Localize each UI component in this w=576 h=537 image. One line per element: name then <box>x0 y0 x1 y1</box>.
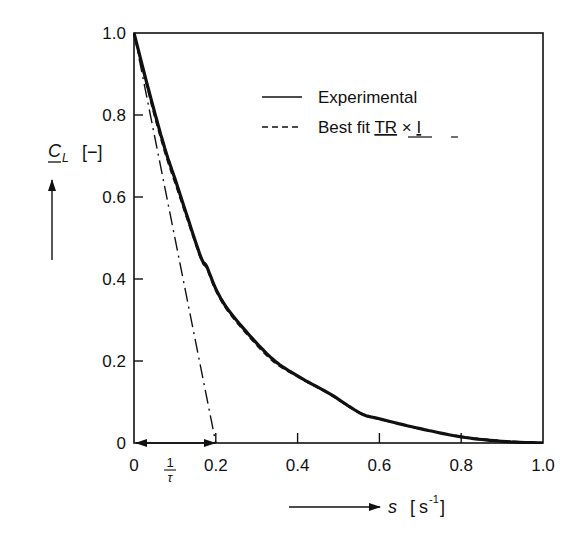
svg-text:]: ] <box>440 497 445 517</box>
chart-figure: 00.20.40.60.81.0 00.20.40.60.81.0 Experi… <box>0 0 576 537</box>
tau-annotation: 1 τ <box>164 455 176 485</box>
legend-label-experimental: Experimental <box>318 88 417 107</box>
x-tick-label: 0.4 <box>286 456 310 475</box>
svg-text:[: [ <box>410 497 415 517</box>
svg-text:s: s <box>388 497 397 517</box>
x-tick-label: 1.0 <box>531 456 555 475</box>
x-tick-label: 0.2 <box>204 456 228 475</box>
svg-text:L: L <box>62 151 69 165</box>
svg-text:-1: -1 <box>429 493 439 505</box>
y-tick-label: 1.0 <box>102 24 126 43</box>
y-axis-label: C L [−] <box>48 141 103 165</box>
svg-text:1: 1 <box>166 455 173 470</box>
y-tick-label: 0.6 <box>102 188 126 207</box>
x-axis-label: s [ s -1 ] <box>388 493 445 517</box>
y-axis-ticks: 00.20.40.60.81.0 <box>102 24 143 453</box>
svg-text:C: C <box>48 141 62 161</box>
y-tick-label: 0 <box>117 434 126 453</box>
tangent-dash-dot-line <box>134 33 216 443</box>
y-tick-label: 0.8 <box>102 106 126 125</box>
svg-text:[−]: [−] <box>82 142 103 162</box>
svg-text:τ: τ <box>168 470 174 485</box>
legend-label-best-fit: Best fit TR × I <box>318 118 421 137</box>
x-tick-label: 0.8 <box>449 456 473 475</box>
y-tick-label: 0.4 <box>102 270 126 289</box>
svg-text:s: s <box>419 497 428 517</box>
y-tick-label: 0.2 <box>102 352 126 371</box>
legend: Experimental Best fit TR × I <box>262 88 458 137</box>
x-tick-label: 0.6 <box>368 456 392 475</box>
x-tick-label: 0 <box>129 456 138 475</box>
